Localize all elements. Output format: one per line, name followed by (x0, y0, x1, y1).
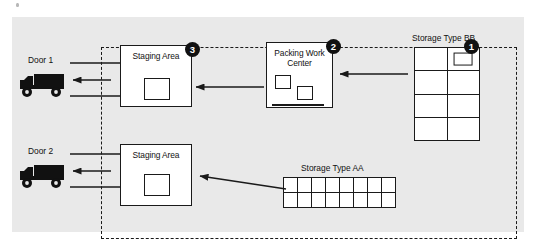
warehouse-flow-diagram: Door 1 Door 2 Staging Area Staging Area … (0, 0, 536, 249)
delivery-truck-icon-door-2 (20, 165, 64, 188)
flow-aa-to-staging-bottom (200, 176, 286, 189)
delivery-truck-icon-door-1 (20, 74, 64, 97)
vector-overlay (0, 0, 536, 249)
